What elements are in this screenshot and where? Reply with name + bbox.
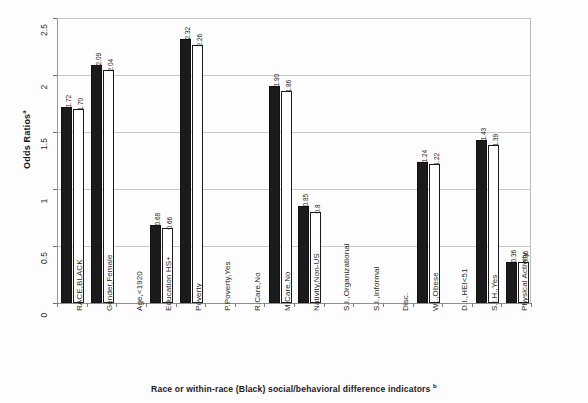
x-tick-mark (264, 303, 265, 307)
gridline-2-5 (58, 18, 530, 19)
x-tick-mark (353, 303, 354, 307)
y-axis-title-superscript: a (21, 110, 27, 114)
bar-filled (91, 65, 102, 303)
x-tick-mark (531, 303, 532, 307)
y-tick-label: 0.5 (39, 245, 49, 271)
y-tick-mark (53, 75, 57, 76)
y-tick-label: 1 (39, 188, 49, 214)
bar-value-label: 1.70 (77, 98, 84, 111)
bar-filled (269, 86, 280, 303)
x-axis-title-superscript: b (433, 383, 437, 389)
x-tick-mark (324, 303, 325, 307)
bar-value-label: 1.22 (432, 153, 439, 166)
x-category-label: M.Care,No (283, 271, 292, 311)
x-tick-mark (57, 303, 58, 307)
bar-value-label: 2.32 (183, 26, 190, 39)
bar-value-label: 1.72 (65, 95, 72, 108)
x-category-label: Gender,Female (105, 255, 114, 311)
bar-value-label: 0.8 (314, 204, 321, 213)
y-axis-title: Odds Ratiosa (21, 70, 32, 210)
gridline-1 (58, 189, 530, 190)
y-tick-label: 2 (39, 74, 49, 100)
y-tick-label: 2.5 (39, 17, 49, 43)
x-tick-mark (413, 303, 414, 307)
x-category-label: Nativity,Non-US (312, 253, 321, 311)
y-axis-title-text: Odds Ratios (22, 114, 32, 169)
bar-filled (61, 107, 72, 303)
y-tick-mark (53, 246, 57, 247)
x-tick-mark (294, 303, 295, 307)
x-tick-mark (235, 303, 236, 307)
x-tick-mark (442, 303, 443, 307)
x-tick-mark (205, 303, 206, 307)
x-category-label: Education HS+ (164, 256, 173, 311)
x-category-label: Wt.,Obese (431, 272, 440, 311)
y-tick-mark (53, 189, 57, 190)
x-axis-title-text: Race or within-race (Black) social/behav… (151, 384, 430, 394)
x-tick-mark (87, 303, 88, 307)
x-category-label: RACE,BLACK (75, 259, 84, 311)
x-tick-mark (501, 303, 502, 307)
y-tick-mark (53, 132, 57, 133)
bar-value-label: 0.66 (166, 217, 173, 230)
bar-value-label: 0.68 (154, 213, 161, 226)
y-tick-label: 1.5 (39, 131, 49, 157)
plot-area (57, 18, 531, 303)
x-category-label: Poverty (194, 283, 203, 311)
x-tick-mark (472, 303, 473, 307)
figure-canvas: Odds Ratiosa 00.511.522.5 RACE,BLACKGend… (0, 0, 588, 403)
bar-value-label: 1.39 (492, 133, 499, 146)
gridline-0-5 (58, 246, 530, 247)
bar-value-label: 1.24 (420, 149, 427, 162)
x-category-label: S.I.,Organizational (342, 243, 351, 311)
bar-open (192, 45, 203, 303)
x-tick-mark (383, 303, 384, 307)
y-tick-label: 0 (39, 302, 49, 328)
bar-filled (476, 140, 487, 303)
x-category-label: R.Care,No (253, 272, 262, 311)
bar-value-label: 0.36 (509, 250, 516, 263)
x-category-label: S.I.H.,Yes (490, 275, 499, 311)
x-category-label: P.Poverty,Yes (223, 261, 232, 311)
bar-filled (506, 262, 517, 303)
x-category-label: D.I.,HEI<51 (460, 268, 469, 311)
bar-filled (417, 162, 428, 303)
bar-value-label: 1.90 (272, 74, 279, 87)
bar-value-label: 0.85 (302, 194, 309, 207)
x-tick-mark (146, 303, 147, 307)
gridline-1-5 (58, 132, 530, 133)
scan-edge (0, 0, 588, 2)
x-tick-mark (176, 303, 177, 307)
bar-value-label: 2.04 (106, 59, 113, 72)
gridline-2 (58, 75, 530, 76)
bar-filled (150, 225, 161, 303)
bar-value-label: 2.09 (94, 53, 101, 66)
y-tick-mark (53, 18, 57, 19)
x-category-label: S.I.,Informal (372, 267, 381, 311)
bar-filled (180, 39, 191, 303)
bar-filled (298, 206, 309, 303)
x-axis-title: Race or within-race (Black) social/behav… (0, 383, 588, 394)
x-category-label: Age,<1920 (135, 271, 144, 311)
bar-value-label: 1.86 (284, 80, 291, 93)
bar-value-label: 1.43 (480, 128, 487, 141)
x-tick-mark (116, 303, 117, 307)
bar-value-label: 2.26 (195, 34, 202, 47)
x-category-label: Disc. (401, 293, 410, 311)
bar-value-label: 0.36 (521, 251, 528, 264)
